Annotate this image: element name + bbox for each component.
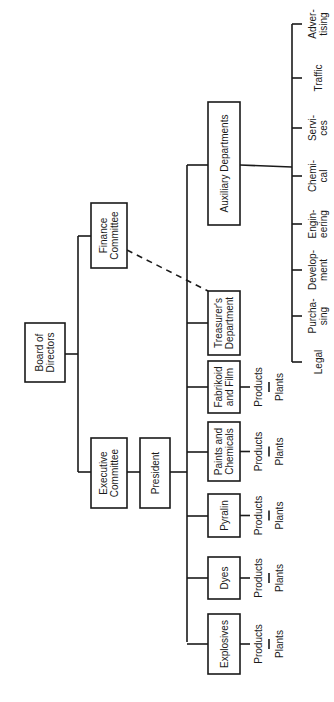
board-label-line: Directors (45, 332, 56, 372)
pyralin-plants-label-line: Plants (274, 502, 285, 530)
auxiliary-dept-purcha-line: sing (318, 307, 329, 325)
explosives-products-label-line: Products (253, 624, 264, 663)
dyes-plants-label-line: Plants (274, 564, 285, 592)
board-label: Board ofDirectors (34, 332, 56, 372)
fabrikoid-products-label-line: Products (253, 367, 264, 406)
auxiliary-dept-adver-line: Adver- (307, 9, 318, 38)
executive-label: ExecutiveCommittee (98, 448, 120, 497)
treasurer-label-line: Department (224, 297, 235, 349)
explosives-products-label: Products (253, 624, 264, 663)
fabrikoid-label-line: and Film (224, 368, 235, 406)
dyes-label: Dyes (219, 567, 230, 590)
fabrikoid-products-label: Products (253, 367, 264, 406)
auxiliary-dept-servi-line: Servi- (307, 115, 318, 141)
pyralin-plants-label: Plants (274, 502, 285, 530)
finance-treasurer-dashed-link (127, 250, 208, 291)
fabrikoid-plants-label: Plants (274, 373, 285, 401)
dyes-products-label-line: Products (253, 558, 264, 597)
president-label-line: President (150, 452, 161, 494)
dyes-plants-label: Plants (274, 564, 285, 592)
explosives-label-line: Explosives (219, 620, 230, 668)
explosives-plants-label: Plants (274, 630, 285, 658)
auxiliary-label: Auxiliary Departments (219, 115, 230, 213)
auxiliary-dept-chemi: Chemi-cal (307, 160, 329, 192)
auxiliary-dept-develop-line: Develop- (307, 250, 318, 290)
paints-label-line: Paints and (213, 428, 224, 475)
auxiliary-dept-servi-line: ces (318, 120, 329, 136)
fabrikoid-label-line: Fabrikoid (213, 366, 224, 407)
paints-label-line: Chemicals (224, 428, 235, 475)
explosives-plants-label-line: Plants (274, 630, 285, 658)
connector-lines (65, 24, 302, 649)
auxiliary-dept-engin-line: Engin- (307, 210, 318, 239)
board-label-line: Board of (34, 333, 45, 371)
auxiliary-dept-traffic-line: Traffic (313, 64, 324, 91)
auxiliary-dept-adver: Adver-tising (307, 9, 329, 38)
auxiliary-dept-develop: Develop-ment (307, 250, 329, 290)
node-boxes (25, 102, 240, 674)
paints-plants-label-line: Plants (274, 438, 285, 466)
auxiliary-dept-chemi-line: cal (318, 170, 329, 183)
fabrikoid-label: Fabrikoidand Film (213, 366, 235, 407)
auxiliary-dept-legal: Legal (313, 350, 324, 374)
pyralin-label-line: Pyralin (219, 500, 230, 531)
president-label: President (150, 452, 161, 494)
treasurer-label-line: Treasurer's (213, 298, 224, 348)
auxiliary-dept-develop-line: ment (318, 259, 329, 281)
auxiliary-dept-engin-line: eering (318, 210, 329, 238)
dyes-products-label: Products (253, 558, 264, 597)
auxiliary-dept-servi: Servi-ces (307, 115, 329, 141)
explosives-label: Explosives (219, 620, 230, 668)
finance-label-line: Finance (98, 217, 109, 253)
finance-label-line: Committee (109, 211, 120, 260)
pyralin-label: Pyralin (219, 500, 230, 531)
fabrikoid-plants-label-line: Plants (274, 373, 285, 401)
auxiliary-dept-traffic: Traffic (313, 64, 324, 91)
paints-plants-label: Plants (274, 438, 285, 466)
pyralin-products-label: Products (253, 496, 264, 535)
executive-label-line: Executive (98, 451, 109, 495)
paints-products-label-line: Products (253, 432, 264, 471)
auxiliary-label-line: Auxiliary Departments (219, 115, 230, 213)
auxiliary-dept-purcha-line: Purcha- (307, 298, 318, 333)
auxiliary-dept-chemi-line: Chemi- (307, 160, 318, 192)
auxiliary-dept-legal-line: Legal (313, 350, 324, 374)
pyralin-products-label-line: Products (253, 496, 264, 535)
dyes-label-line: Dyes (219, 567, 230, 590)
auxiliary-dept-purcha: Purcha-sing (307, 298, 329, 333)
org-chart: ProductsPlantsProductsPlantsProductsPlan… (0, 0, 334, 702)
paints-products-label: Products (253, 432, 264, 471)
paints-label: Paints andChemicals (213, 428, 235, 475)
auxiliary-connector (240, 165, 292, 167)
finance-label: FinanceCommittee (98, 211, 120, 260)
executive-label-line: Committee (109, 448, 120, 497)
treasurer-label: Treasurer'sDepartment (213, 297, 235, 349)
auxiliary-dept-engin: Engin-eering (307, 210, 329, 239)
auxiliary-dept-adver-line: tising (318, 12, 329, 35)
